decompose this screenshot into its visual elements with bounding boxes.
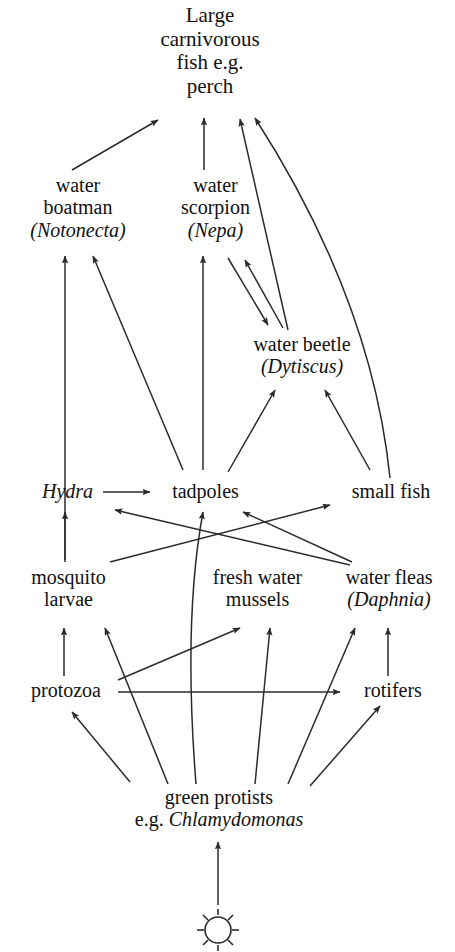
- node-fresh-water-mussels: fresh water mussels: [190, 566, 325, 611]
- node-genus-line: Chlamydomonas: [169, 808, 303, 830]
- node-protozoa: protozoa: [6, 679, 126, 701]
- edge-mussels-to-smallfish: [110, 505, 330, 562]
- node-label-line: water beetle: [222, 333, 382, 355]
- edge-protists-to-mosquito: [105, 628, 168, 784]
- edge-tadpoles-to-boatman: [93, 256, 183, 470]
- node-label-line: rotifers: [338, 679, 448, 701]
- node-label-line: fish e.g.: [115, 51, 305, 75]
- edge-fleas-to-hydra: [115, 510, 350, 565]
- node-green-protists: green protists e.g. Chlamydomonas: [98, 786, 340, 831]
- node-label-line: green protists: [98, 786, 340, 808]
- node-rotifers: rotifers: [338, 679, 448, 701]
- node-genus-line: (Nepa): [148, 219, 283, 241]
- node-label-line: water fleas: [325, 566, 453, 588]
- node-genus-line: (Dytiscus): [222, 355, 382, 377]
- node-tadpoles: tadpoles: [148, 480, 263, 502]
- edge-protists-to-protozoa: [72, 712, 130, 782]
- edge-tadpoles-to-beetle: [228, 390, 275, 472]
- node-water-scorpion: water scorpion (Nepa): [148, 174, 283, 241]
- node-hydra: Hydra: [10, 480, 125, 502]
- node-water-beetle: water beetle (Dytiscus): [222, 333, 382, 378]
- node-label-line: fresh water: [190, 566, 325, 588]
- node-label-line-2: e.g. Chlamydomonas: [98, 808, 340, 830]
- node-label-line: mosquito: [6, 566, 131, 588]
- node-genus-line: (Daphnia): [325, 588, 453, 610]
- node-small-fish: small fish: [330, 480, 452, 502]
- node-label-line: water: [8, 174, 148, 196]
- food-web-diagram: Large carnivorous fish e.g. perch water …: [0, 0, 455, 952]
- edge-smallfish-to-perch: [255, 118, 390, 478]
- node-label-line: mussels: [190, 588, 325, 610]
- node-label-line: scorpion: [148, 196, 283, 218]
- edge-protists-to-rotifers: [310, 706, 380, 786]
- node-label-line: small fish: [330, 480, 452, 502]
- node-label-line: water: [148, 174, 283, 196]
- edge-protozoa-to-mussels: [118, 628, 240, 680]
- node-mosquito-larvae: mosquito larvae: [6, 566, 131, 611]
- node-genus-line: (Notonecta): [8, 219, 148, 241]
- edge-protists-to-fleas: [288, 628, 355, 784]
- sun-icon: [197, 909, 239, 951]
- node-label-line: tadpoles: [148, 480, 263, 502]
- node-water-fleas: water fleas (Daphnia): [325, 566, 453, 611]
- node-label-line: boatman: [8, 196, 148, 218]
- edge-boatman-to-perch: [72, 120, 158, 170]
- node-large-carnivorous-fish: Large carnivorous fish e.g. perch: [115, 4, 305, 98]
- node-label-line: carnivorous: [115, 28, 305, 52]
- node-label-line: protozoa: [6, 679, 126, 701]
- edge-fleas-to-tadpolesarea: [243, 512, 352, 562]
- node-label-line: larvae: [6, 588, 131, 610]
- edge-smallfish-to-beetle: [325, 390, 370, 470]
- eg-prefix: e.g.: [135, 808, 169, 830]
- edge-protists-to-mussels: [255, 628, 270, 784]
- node-label-line: perch: [115, 75, 305, 99]
- node-label-line: Large: [115, 4, 305, 28]
- node-water-boatman: water boatman (Notonecta): [8, 174, 148, 241]
- node-label-line: Hydra: [10, 480, 125, 502]
